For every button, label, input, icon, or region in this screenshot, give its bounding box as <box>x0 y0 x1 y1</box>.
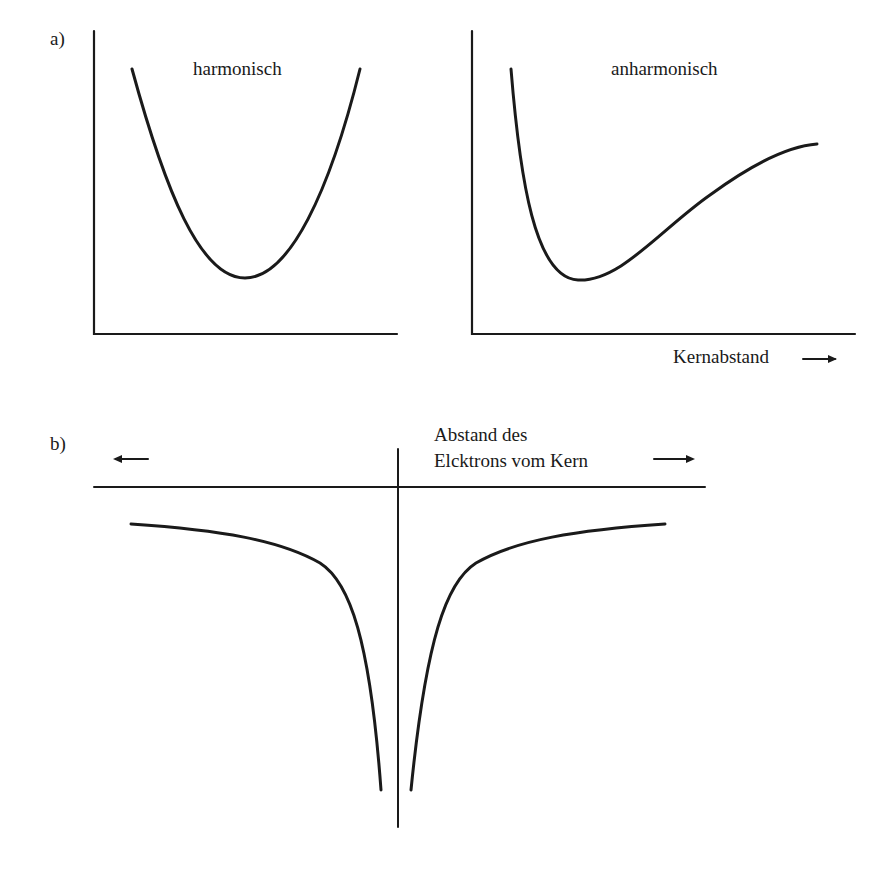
axis-label-line2: Elcktrons vom Kern <box>434 450 588 472</box>
anharmonic-title: anharmonisch <box>611 58 718 80</box>
panel-b-label: b) <box>50 433 66 455</box>
coulomb-curve-left <box>131 524 381 790</box>
coulomb-curve-right <box>411 524 665 790</box>
anharmonic-curve <box>511 69 817 280</box>
panel-a-label: a) <box>50 28 65 50</box>
harmonic-title: harmonisch <box>193 58 282 80</box>
axis-label-line1: Abstand des <box>434 424 527 446</box>
x-axis-label: Kernabstand <box>673 346 769 368</box>
harmonic-curve <box>132 69 360 278</box>
